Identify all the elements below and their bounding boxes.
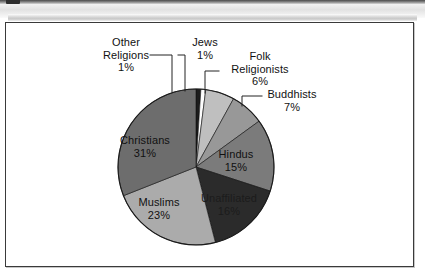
pie-label-buddhists-line1: Buddhists <box>261 88 323 101</box>
pie-label-other-religions-line1: Other <box>96 36 156 49</box>
pie-label-muslims: Muslims 23% <box>128 196 190 221</box>
pie-label-hindus-value: 15% <box>207 161 265 174</box>
pie-label-other-religions-value: 1% <box>96 61 156 74</box>
pie-label-buddhists: Buddhists 7% <box>261 88 323 113</box>
pie-label-other-religions: Other Religions 1% <box>96 36 156 74</box>
pie-label-hindus-line1: Hindus <box>207 148 265 161</box>
pie-label-christians-value: 31% <box>110 147 180 160</box>
pie-label-hindus: Hindus 15% <box>207 148 265 173</box>
pie-label-unaffiliated: Unaffiliated 16% <box>193 192 265 217</box>
pie-label-unaffiliated-line1: Unaffiliated <box>193 192 265 205</box>
scan-smudge-band <box>8 14 417 21</box>
pie-label-other-religions-line2: Religions <box>96 49 156 62</box>
pie-label-folk-religionists-line2: Religionists <box>219 63 301 76</box>
pie-label-muslims-value: 23% <box>128 209 190 222</box>
pie-label-christians: Christians 31% <box>110 134 180 159</box>
pie-label-folk-religionists-line1: Folk <box>219 50 301 63</box>
pie-label-buddhists-value: 7% <box>261 101 323 114</box>
pie-label-unaffiliated-value: 16% <box>193 205 265 218</box>
pie-label-christians-line1: Christians <box>110 134 180 147</box>
pie-label-jews-line1: Jews <box>184 36 226 49</box>
pie-label-folk-religionists: Folk Religionists 6% <box>219 50 301 88</box>
pie-label-folk-religionists-value: 6% <box>219 75 301 88</box>
pie-label-muslims-line1: Muslims <box>128 196 190 209</box>
